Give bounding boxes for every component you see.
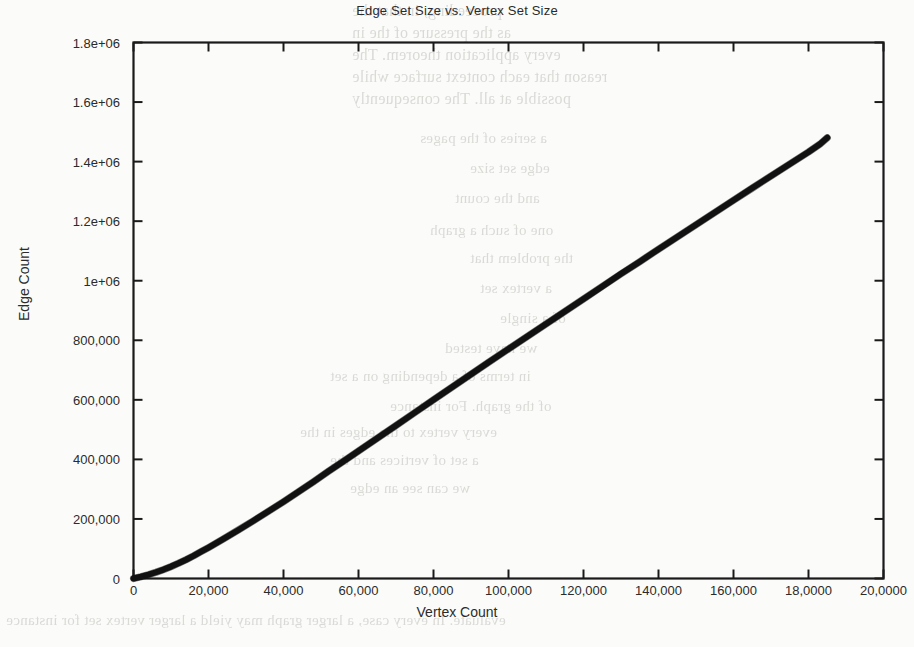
y-tick-label: 1e+06 bbox=[20, 273, 120, 288]
x-tick-label: 18,0000 bbox=[785, 583, 832, 598]
y-tick-label: 1.8e+06 bbox=[20, 35, 120, 50]
x-tick-label: 0 bbox=[130, 583, 137, 598]
x-tick-label: 100,000 bbox=[485, 583, 532, 598]
x-tick-label: 60,000 bbox=[339, 583, 379, 598]
y-axis-title: Edge Count bbox=[16, 224, 32, 344]
y-tick-label: 600,000 bbox=[20, 392, 120, 407]
x-tick-label: 120,000 bbox=[560, 583, 607, 598]
y-tick-label: 200,000 bbox=[20, 511, 120, 526]
x-tick-label: 140,000 bbox=[635, 583, 682, 598]
scanned-figure-page: proceeding, in that theas the pressure o… bbox=[0, 0, 914, 647]
y-tick-label: 0 bbox=[20, 571, 120, 586]
x-tick-label: 80,000 bbox=[414, 583, 454, 598]
chart-figure: Edge Set Size vs. Vertex Set Size 0200,0… bbox=[0, 0, 914, 647]
x-axis-title: Vertex Count bbox=[0, 604, 914, 620]
y-tick-label: 1.2e+06 bbox=[20, 214, 120, 229]
x-tick-label: 40,000 bbox=[264, 583, 304, 598]
y-tick-label: 400,000 bbox=[20, 452, 120, 467]
x-tick-label: 160,000 bbox=[710, 583, 757, 598]
y-tick-label: 1.4e+06 bbox=[20, 154, 120, 169]
x-tick-label: 20,0000 bbox=[860, 583, 907, 598]
chart-plot-area bbox=[0, 0, 914, 647]
y-tick-label: 800,000 bbox=[20, 333, 120, 348]
y-tick-label: 1.6e+06 bbox=[20, 95, 120, 110]
x-tick-label: 20,000 bbox=[189, 583, 229, 598]
